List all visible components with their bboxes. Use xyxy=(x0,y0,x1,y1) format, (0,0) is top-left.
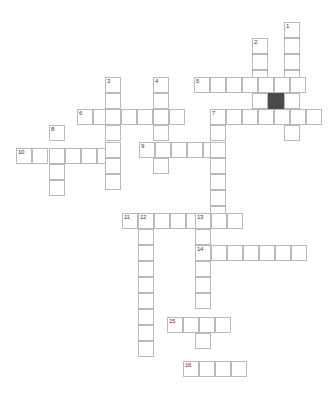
crossword-cell[interactable] xyxy=(210,77,226,93)
clue-number-8: 8 xyxy=(51,126,54,133)
crossword-cell[interactable] xyxy=(155,142,171,158)
crossword-cell[interactable] xyxy=(210,142,226,158)
crossword-cell[interactable] xyxy=(195,261,211,277)
crossword-cell[interactable] xyxy=(153,109,169,125)
crossword-cell[interactable] xyxy=(170,213,186,229)
crossword-cell-numbered-2[interactable]: 2 xyxy=(252,38,268,54)
clue-number-14: 14 xyxy=(197,246,203,253)
crossword-cell[interactable] xyxy=(138,325,154,341)
crossword-cell[interactable] xyxy=(105,109,121,125)
crossword-cell-numbered-16[interactable]: 16 xyxy=(183,361,199,377)
crossword-cell[interactable] xyxy=(105,142,121,158)
crossword-cell[interactable] xyxy=(49,148,65,164)
clue-number-15: 15 xyxy=(169,318,175,325)
crossword-cell[interactable] xyxy=(138,341,154,357)
crossword-cell[interactable] xyxy=(121,109,137,125)
crossword-cell[interactable] xyxy=(284,93,300,109)
crossword-cell[interactable] xyxy=(183,317,199,333)
crossword-cell-numbered-3[interactable]: 3 xyxy=(105,77,121,93)
crossword-cell[interactable] xyxy=(153,93,169,109)
crossword-cell[interactable] xyxy=(227,245,243,261)
clue-number-9: 9 xyxy=(141,143,144,150)
crossword-cell[interactable] xyxy=(210,174,226,190)
crossword-cell[interactable] xyxy=(284,38,300,54)
crossword-cell-numbered-10[interactable]: 10 xyxy=(16,148,32,164)
crossword-cell[interactable] xyxy=(195,333,211,349)
crossword-cell[interactable] xyxy=(274,77,290,93)
crossword-cell[interactable] xyxy=(81,148,97,164)
crossword-cell[interactable] xyxy=(306,109,322,125)
crossword-cell[interactable] xyxy=(290,109,306,125)
crossword-cell[interactable] xyxy=(242,77,258,93)
crossword-cell[interactable] xyxy=(275,245,291,261)
crossword-cell[interactable] xyxy=(258,77,274,93)
clue-number-16: 16 xyxy=(185,362,191,369)
crossword-cell[interactable] xyxy=(49,180,65,196)
crossword-cell[interactable] xyxy=(284,125,300,141)
crossword-cell[interactable] xyxy=(105,93,121,109)
crossword-cell[interactable] xyxy=(274,109,290,125)
crossword-cell[interactable] xyxy=(199,317,215,333)
crossword-cell[interactable] xyxy=(227,213,243,229)
crossword-cell[interactable] xyxy=(242,109,258,125)
crossword-cell[interactable] xyxy=(210,190,226,206)
crossword-cell[interactable] xyxy=(226,109,242,125)
crossword-cell-numbered-5[interactable]: 5 xyxy=(194,77,210,93)
crossword-cell[interactable] xyxy=(153,125,169,141)
crossword-cell[interactable] xyxy=(195,293,211,309)
crossword-cell[interactable] xyxy=(252,93,268,109)
crossword-cell[interactable] xyxy=(138,245,154,261)
crossword-cell[interactable] xyxy=(258,109,274,125)
crossword-cell-numbered-4[interactable]: 4 xyxy=(153,77,169,93)
crossword-cell[interactable] xyxy=(187,142,203,158)
crossword-cell[interactable] xyxy=(211,245,227,261)
clue-number-4: 4 xyxy=(155,78,158,85)
crossword-cell[interactable] xyxy=(137,109,153,125)
crossword-cell[interactable] xyxy=(215,317,231,333)
crossword-cell-numbered-15[interactable]: 15 xyxy=(167,317,183,333)
crossword-cell[interactable] xyxy=(105,125,121,141)
crossword-cell[interactable] xyxy=(138,261,154,277)
crossword-cell[interactable] xyxy=(215,361,231,377)
crossword-cell[interactable] xyxy=(291,245,307,261)
crossword-cell-numbered-6[interactable]: 6 xyxy=(77,109,93,125)
crossword-cell-numbered-13[interactable]: 13 xyxy=(195,213,211,229)
crossword-cell[interactable] xyxy=(195,277,211,293)
crossword-cell-numbered-8[interactable]: 8 xyxy=(49,125,65,141)
crossword-cell[interactable] xyxy=(154,213,170,229)
clue-number-2: 2 xyxy=(254,39,257,46)
crossword-cell-numbered-1[interactable]: 1 xyxy=(284,22,300,38)
crossword-cell-numbered-11[interactable]: 11 xyxy=(122,213,138,229)
crossword-cell[interactable] xyxy=(210,158,226,174)
crossword-cell[interactable] xyxy=(243,245,259,261)
crossword-cell[interactable] xyxy=(138,309,154,325)
crossword-cell[interactable] xyxy=(226,77,242,93)
clue-number-12: 12 xyxy=(140,214,146,221)
crossword-cell[interactable] xyxy=(49,164,65,180)
crossword-cell-numbered-12[interactable]: 12 xyxy=(138,213,154,229)
crossword-cell[interactable] xyxy=(211,213,227,229)
clue-number-11: 11 xyxy=(124,214,130,221)
crossword-cell[interactable] xyxy=(105,158,121,174)
crossword-cell[interactable] xyxy=(32,148,48,164)
crossword-cell[interactable] xyxy=(259,245,275,261)
crossword-cell-numbered-14[interactable]: 14 xyxy=(195,245,211,261)
crossword-cell[interactable] xyxy=(290,77,306,93)
crossword-cell[interactable] xyxy=(138,293,154,309)
crossword-cell[interactable] xyxy=(65,148,81,164)
crossword-cell-numbered-7[interactable]: 7 xyxy=(210,109,226,125)
crossword-cell[interactable] xyxy=(171,142,187,158)
crossword-cell[interactable] xyxy=(169,109,185,125)
crossword-cell[interactable] xyxy=(231,361,247,377)
crossword-cell[interactable] xyxy=(199,361,215,377)
clue-number-6: 6 xyxy=(79,110,82,117)
crossword-cell[interactable] xyxy=(210,125,226,141)
crossword-cell-numbered-9[interactable]: 9 xyxy=(139,142,155,158)
crossword-cell[interactable] xyxy=(284,54,300,70)
crossword-cell[interactable] xyxy=(195,229,211,245)
crossword-cell[interactable] xyxy=(138,229,154,245)
crossword-cell[interactable] xyxy=(153,158,169,174)
crossword-cell[interactable] xyxy=(252,54,268,70)
crossword-cell[interactable] xyxy=(105,174,121,190)
crossword-cell[interactable] xyxy=(138,277,154,293)
